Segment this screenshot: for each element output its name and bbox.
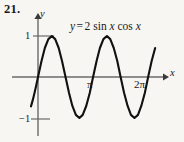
graph-plot <box>0 0 184 142</box>
y-axis-arrowhead <box>34 13 41 19</box>
figure-page: 21. y=2 sin x cos x y x 1 −1 π 2π <box>0 0 184 142</box>
x-axis-arrowhead <box>163 73 169 80</box>
